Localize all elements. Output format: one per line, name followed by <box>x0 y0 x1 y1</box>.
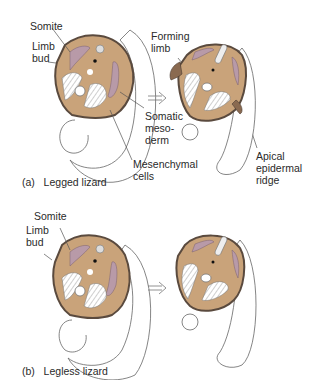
caption-a: (a) Legged lizard <box>22 176 107 188</box>
label-limb-bud-a: Limb bud <box>32 40 55 64</box>
gut <box>75 286 85 296</box>
caption-b-text: Legless lizard <box>44 365 108 377</box>
neural-tube <box>96 245 104 253</box>
label-forming-limb: Forming limb <box>151 30 190 54</box>
label-somite-b: Somite <box>34 210 67 222</box>
notochord <box>212 69 215 72</box>
label-apical-epidermal-ridge: Apical epidermal ridge <box>256 150 302 186</box>
caption-b: (b) Legless lizard <box>22 365 108 377</box>
label-mesenchymal-cells: Mesenchymal cells <box>133 158 198 182</box>
notochord <box>93 59 97 63</box>
embryo-head-loop <box>182 124 198 140</box>
embryo-head-loop <box>182 314 198 330</box>
embryo-head-loop <box>59 320 86 352</box>
caption-a-text: Legged lizard <box>44 176 107 188</box>
neural-tube <box>96 45 104 53</box>
label-somite-a: Somite <box>30 20 63 32</box>
gut <box>75 86 85 96</box>
embryo-head-loop <box>60 120 88 153</box>
small-white-spot <box>87 269 93 275</box>
gut <box>202 83 212 91</box>
caption-b-letter: (b) <box>22 365 35 377</box>
gut <box>201 274 211 282</box>
panel-b-later-embryo <box>177 236 257 368</box>
panel-b-early-embryo <box>53 235 150 380</box>
notochord <box>212 261 215 264</box>
label-somatic-mesoderm: Somatic meso- derm <box>145 110 183 146</box>
small-white-spot <box>87 69 93 75</box>
transition-arrow-b <box>148 282 166 294</box>
label-limb-bud-b: Limb bud <box>26 224 49 248</box>
caption-a-letter: (a) <box>22 176 35 188</box>
notochord <box>93 259 97 263</box>
